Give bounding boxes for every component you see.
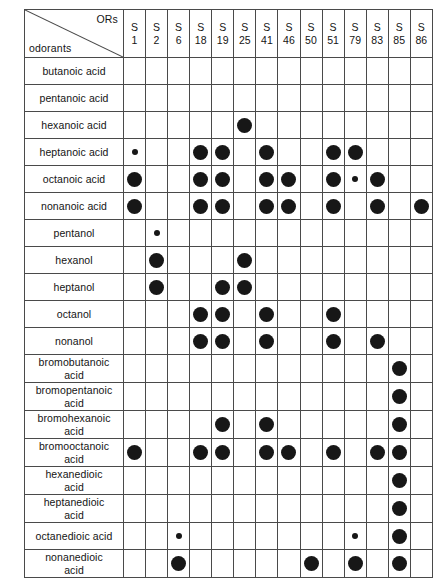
response-cell-S51[interactable]: [322, 411, 344, 439]
response-cell-S6[interactable]: [168, 274, 190, 301]
response-cell-S6[interactable]: [168, 355, 190, 383]
response-cell-S6[interactable]: [168, 220, 190, 247]
response-cell-S19[interactable]: [212, 550, 234, 578]
response-cell-S41[interactable]: [256, 523, 278, 550]
response-cell-S50[interactable]: [300, 301, 322, 328]
response-cell-S83[interactable]: [366, 439, 388, 467]
response-cell-S1[interactable]: [124, 439, 146, 467]
response-cell-S50[interactable]: [300, 139, 322, 166]
response-cell-S51[interactable]: [322, 166, 344, 193]
or-column-header-S79[interactable]: S79: [344, 10, 366, 58]
response-cell-S41[interactable]: [256, 439, 278, 467]
response-cell-S2[interactable]: [146, 112, 168, 139]
response-cell-S51[interactable]: [322, 274, 344, 301]
response-cell-S86[interactable]: [410, 58, 432, 85]
response-cell-S50[interactable]: [300, 112, 322, 139]
response-cell-S25[interactable]: [234, 112, 256, 139]
response-cell-S6[interactable]: [168, 411, 190, 439]
response-cell-S51[interactable]: [322, 220, 344, 247]
response-cell-S51[interactable]: [322, 383, 344, 411]
response-cell-S1[interactable]: [124, 467, 146, 495]
odorant-row-label[interactable]: bromohexanoic acid: [25, 411, 124, 439]
response-cell-S19[interactable]: [212, 85, 234, 112]
response-cell-S83[interactable]: [366, 274, 388, 301]
response-cell-S86[interactable]: [410, 301, 432, 328]
response-cell-S25[interactable]: [234, 467, 256, 495]
response-cell-S25[interactable]: [234, 220, 256, 247]
response-cell-S2[interactable]: [146, 328, 168, 355]
response-cell-S25[interactable]: [234, 550, 256, 578]
response-cell-S79[interactable]: [344, 495, 366, 523]
response-cell-S18[interactable]: [190, 193, 212, 220]
response-cell-S25[interactable]: [234, 328, 256, 355]
response-cell-S1[interactable]: [124, 112, 146, 139]
response-cell-S18[interactable]: [190, 166, 212, 193]
or-column-header-S46[interactable]: S46: [278, 10, 300, 58]
response-cell-S1[interactable]: [124, 166, 146, 193]
response-cell-S1[interactable]: [124, 495, 146, 523]
response-cell-S2[interactable]: [146, 355, 168, 383]
response-cell-S41[interactable]: [256, 85, 278, 112]
response-cell-S83[interactable]: [366, 301, 388, 328]
response-cell-S19[interactable]: [212, 58, 234, 85]
response-cell-S79[interactable]: [344, 274, 366, 301]
response-cell-S41[interactable]: [256, 550, 278, 578]
response-cell-S46[interactable]: [278, 301, 300, 328]
response-cell-S85[interactable]: [388, 193, 410, 220]
response-cell-S86[interactable]: [410, 523, 432, 550]
odorant-row-label[interactable]: bromooctanoic acid: [25, 439, 124, 467]
response-cell-S85[interactable]: [388, 550, 410, 578]
response-cell-S86[interactable]: [410, 274, 432, 301]
response-cell-S25[interactable]: [234, 274, 256, 301]
response-cell-S85[interactable]: [388, 328, 410, 355]
response-cell-S2[interactable]: [146, 383, 168, 411]
response-cell-S83[interactable]: [366, 383, 388, 411]
odorant-row-label[interactable]: hexanoic acid: [25, 112, 124, 139]
response-cell-S51[interactable]: [322, 85, 344, 112]
response-cell-S41[interactable]: [256, 467, 278, 495]
odorant-row-label[interactable]: nonanol: [25, 328, 124, 355]
response-cell-S18[interactable]: [190, 439, 212, 467]
response-cell-S41[interactable]: [256, 139, 278, 166]
response-cell-S18[interactable]: [190, 411, 212, 439]
odorant-row-label[interactable]: nonanoic acid: [25, 193, 124, 220]
response-cell-S6[interactable]: [168, 550, 190, 578]
response-cell-S41[interactable]: [256, 495, 278, 523]
response-cell-S86[interactable]: [410, 467, 432, 495]
odorant-row-label[interactable]: heptanoic acid: [25, 139, 124, 166]
response-cell-S18[interactable]: [190, 495, 212, 523]
response-cell-S6[interactable]: [168, 247, 190, 274]
response-cell-S50[interactable]: [300, 247, 322, 274]
response-cell-S6[interactable]: [168, 467, 190, 495]
response-cell-S79[interactable]: [344, 247, 366, 274]
response-cell-S46[interactable]: [278, 85, 300, 112]
response-cell-S50[interactable]: [300, 274, 322, 301]
response-cell-S41[interactable]: [256, 166, 278, 193]
response-cell-S83[interactable]: [366, 166, 388, 193]
or-column-header-S18[interactable]: S18: [190, 10, 212, 58]
response-cell-S2[interactable]: [146, 301, 168, 328]
response-cell-S50[interactable]: [300, 220, 322, 247]
response-cell-S79[interactable]: [344, 523, 366, 550]
response-cell-S86[interactable]: [410, 247, 432, 274]
response-cell-S6[interactable]: [168, 139, 190, 166]
response-cell-S41[interactable]: [256, 383, 278, 411]
response-cell-S79[interactable]: [344, 355, 366, 383]
response-cell-S83[interactable]: [366, 523, 388, 550]
response-cell-S18[interactable]: [190, 220, 212, 247]
response-cell-S19[interactable]: [212, 523, 234, 550]
response-cell-S25[interactable]: [234, 355, 256, 383]
response-cell-S18[interactable]: [190, 355, 212, 383]
response-cell-S41[interactable]: [256, 247, 278, 274]
response-cell-S79[interactable]: [344, 467, 366, 495]
response-cell-S18[interactable]: [190, 523, 212, 550]
response-cell-S50[interactable]: [300, 411, 322, 439]
response-cell-S50[interactable]: [300, 58, 322, 85]
odorant-row-label[interactable]: butanoic acid: [25, 58, 124, 85]
response-cell-S46[interactable]: [278, 328, 300, 355]
response-cell-S46[interactable]: [278, 439, 300, 467]
response-cell-S1[interactable]: [124, 139, 146, 166]
response-cell-S1[interactable]: [124, 85, 146, 112]
odorant-row-label[interactable]: pentanol: [25, 220, 124, 247]
response-cell-S2[interactable]: [146, 193, 168, 220]
